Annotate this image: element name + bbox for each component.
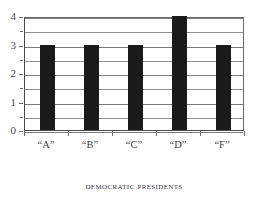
y-tick-label: 3	[0, 40, 16, 51]
chart-caption: Democratic Presidents	[0, 180, 268, 191]
x-tick-mark	[244, 131, 245, 136]
y-tick-mark-minor	[20, 31, 23, 32]
x-tick-mark	[200, 131, 201, 136]
bars-layer	[25, 18, 243, 130]
x-tick-label: “A”	[38, 139, 55, 150]
y-tick-mark	[19, 131, 23, 132]
y-tick-mark-minor	[20, 117, 23, 118]
x-tick-label: “C”	[126, 139, 142, 150]
y-tick-label: 1	[0, 97, 16, 108]
x-tick-label: “D”	[170, 139, 187, 150]
y-tick-label: 0	[0, 125, 16, 136]
y-tick-mark	[19, 103, 23, 104]
y-tick-mark-minor	[20, 60, 23, 61]
x-tick-mark	[24, 131, 25, 136]
bar	[172, 16, 187, 130]
y-tick-mark-minor	[20, 88, 23, 89]
bar	[84, 45, 99, 131]
bar	[128, 45, 143, 131]
y-tick-mark	[19, 17, 23, 18]
x-tick-mark	[68, 131, 69, 136]
y-tick-mark	[19, 46, 23, 47]
bar	[40, 45, 55, 131]
y-tick-mark	[19, 74, 23, 75]
y-tick-label: 4	[0, 11, 16, 22]
bar	[216, 45, 231, 131]
bar-chart-figure: 01234 “A”“B”“C”“D”“F” Democratic Preside…	[0, 0, 268, 205]
plot-area	[24, 17, 244, 131]
x-tick-label: “B”	[82, 139, 98, 150]
x-tick-mark	[156, 131, 157, 136]
y-tick-label: 2	[0, 68, 16, 79]
x-tick-label: “F”	[214, 139, 229, 150]
gridline-0	[25, 132, 243, 133]
x-tick-mark	[112, 131, 113, 136]
